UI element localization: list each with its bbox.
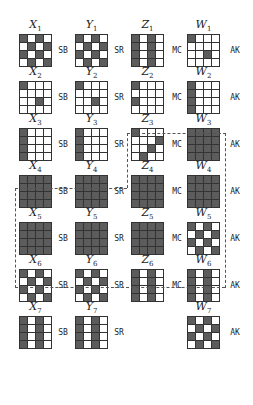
state-round: 7 (93, 307, 97, 315)
active-byte-cell (76, 325, 83, 332)
inactive-byte-cell (92, 43, 99, 50)
active-byte-cell (76, 247, 83, 254)
active-byte-cell (156, 192, 163, 199)
inactive-byte-cell (84, 325, 91, 332)
inactive-byte-cell (44, 333, 51, 340)
dashed-region-border (15, 287, 225, 288)
active-byte-cell (28, 278, 35, 285)
active-byte-cell (156, 176, 163, 183)
active-byte-cell (196, 341, 203, 348)
active-byte-cell (84, 231, 91, 238)
active-byte-cell (132, 184, 139, 191)
active-byte-cell (20, 239, 27, 246)
inactive-byte-cell (148, 82, 155, 89)
inactive-byte-cell (28, 35, 35, 42)
inactive-byte-cell (212, 278, 219, 285)
state-grid-x4 (19, 175, 52, 208)
active-byte-cell (100, 231, 107, 238)
inactive-byte-cell (156, 98, 163, 105)
inactive-byte-cell (84, 145, 91, 152)
active-byte-cell (204, 223, 211, 230)
inactive-byte-cell (28, 333, 35, 340)
active-byte-cell (76, 200, 83, 207)
inactive-byte-cell (100, 106, 107, 113)
state-round: 2 (93, 72, 97, 80)
state-grid-y6 (75, 269, 108, 302)
inactive-byte-cell (76, 106, 83, 113)
inactive-byte-cell (140, 90, 147, 97)
active-byte-cell (76, 153, 83, 160)
active-byte-cell (204, 239, 211, 246)
active-byte-cell (148, 231, 155, 238)
operation-ak: AK (230, 46, 240, 56)
operation-mc: MC (172, 281, 182, 291)
inactive-byte-cell (44, 35, 51, 42)
operation-ak: AK (230, 281, 240, 291)
active-byte-cell (20, 153, 27, 160)
inactive-byte-cell (44, 90, 51, 97)
active-byte-cell (140, 176, 147, 183)
state-var: W (196, 300, 207, 313)
state-grid-z5 (131, 222, 164, 255)
inactive-byte-cell (36, 82, 43, 89)
state-grid-y4 (75, 175, 108, 208)
state-label-y4: Y4 (72, 160, 112, 176)
inactive-byte-cell (84, 51, 91, 58)
inactive-byte-cell (212, 223, 219, 230)
active-byte-cell (28, 239, 35, 246)
active-byte-cell (188, 153, 195, 160)
operation-mc: MC (172, 187, 182, 197)
inactive-byte-cell (140, 51, 147, 58)
inactive-byte-cell (36, 43, 43, 50)
active-byte-cell (36, 223, 43, 230)
state-round: 1 (37, 25, 41, 33)
inactive-byte-cell (28, 317, 35, 324)
active-byte-cell (28, 231, 35, 238)
inactive-byte-cell (44, 51, 51, 58)
operation-sr: SR (114, 281, 124, 291)
active-byte-cell (92, 176, 99, 183)
state-grid-w1 (187, 34, 220, 67)
state-label-x4: X4 (16, 160, 56, 176)
inactive-byte-cell (92, 278, 99, 285)
inactive-byte-cell (188, 51, 195, 58)
dashed-region-border (15, 188, 16, 288)
inactive-byte-cell (156, 270, 163, 277)
active-byte-cell (36, 231, 43, 238)
active-byte-cell (20, 82, 27, 89)
active-byte-cell (188, 35, 195, 42)
inactive-byte-cell (196, 278, 203, 285)
active-byte-cell (92, 333, 99, 340)
active-byte-cell (36, 325, 43, 332)
inactive-byte-cell (100, 325, 107, 332)
active-byte-cell (100, 192, 107, 199)
inactive-byte-cell (36, 145, 43, 152)
active-byte-cell (36, 317, 43, 324)
operation-mc: MC (172, 93, 182, 103)
active-byte-cell (204, 192, 211, 199)
inactive-byte-cell (28, 341, 35, 348)
active-byte-cell (132, 82, 139, 89)
active-byte-cell (148, 145, 155, 152)
active-byte-cell (20, 270, 27, 277)
operation-sb: SB (58, 46, 68, 56)
state-label-y1: Y1 (72, 19, 112, 35)
inactive-byte-cell (140, 145, 147, 152)
inactive-byte-cell (204, 90, 211, 97)
active-byte-cell (100, 43, 107, 50)
inactive-byte-cell (132, 137, 139, 144)
active-byte-cell (188, 200, 195, 207)
active-byte-cell (44, 239, 51, 246)
operation-sr: SR (114, 140, 124, 150)
active-byte-cell (20, 341, 27, 348)
state-grid-x5 (19, 222, 52, 255)
inactive-byte-cell (212, 35, 219, 42)
active-byte-cell (132, 231, 139, 238)
active-byte-cell (44, 192, 51, 199)
active-byte-cell (28, 43, 35, 50)
state-label-x7: X7 (16, 301, 56, 317)
active-byte-cell (156, 223, 163, 230)
inactive-byte-cell (156, 35, 163, 42)
inactive-byte-cell (44, 153, 51, 160)
dashed-region-border (127, 133, 226, 134)
